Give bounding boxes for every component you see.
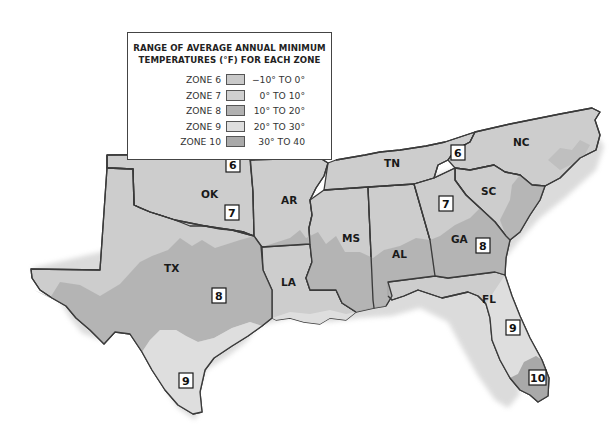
- legend-zone-name: ZONE 9: [128, 121, 226, 132]
- legend-zone-range: −10° TO 0°: [245, 74, 305, 85]
- legend-swatch-zone-6: [226, 74, 245, 85]
- legend-zone-name: ZONE 10: [128, 136, 226, 147]
- state-label-nc: NC: [513, 136, 530, 148]
- svg-text:7: 7: [228, 207, 236, 220]
- legend-zone-range: 0° TO 10°: [245, 90, 305, 101]
- zone-marker-fl-10: 10: [529, 370, 546, 385]
- state-label-ga: GA: [451, 233, 469, 245]
- legend-swatch-zone-7: [226, 90, 245, 101]
- legend-zone-name: ZONE 6: [128, 74, 226, 85]
- svg-text:10: 10: [530, 372, 546, 385]
- state-label-al: AL: [392, 248, 407, 260]
- state-label-la: LA: [281, 276, 297, 288]
- state-label-sc: SC: [481, 185, 497, 197]
- zone-marker-tn-6: 6: [451, 145, 465, 160]
- legend-swatch-zone-10: [226, 136, 245, 147]
- zone-marker-ok-7: 7: [225, 205, 239, 220]
- state-label-ms: MS: [342, 232, 360, 244]
- legend-swatch-zone-8: [226, 105, 245, 116]
- legend-row-zone-8: ZONE 8 10° TO 20°: [128, 103, 331, 119]
- legend: RANGE OF AVERAGE ANNUAL MINIMUM TEMPERAT…: [127, 32, 332, 160]
- legend-swatch-zone-9: [226, 121, 245, 132]
- state-label-tx: TX: [164, 262, 179, 274]
- zone-marker-ga-7: 7: [439, 196, 453, 211]
- legend-row-zone-7: ZONE 7 0° TO 10°: [128, 88, 331, 104]
- svg-text:6: 6: [229, 159, 237, 172]
- legend-zone-range: 20° TO 30°: [245, 121, 305, 132]
- zone-marker-tx-8: 8: [212, 288, 226, 303]
- legend-rows: ZONE 6 −10° TO 0° ZONE 7 0° TO 10° ZONE …: [128, 72, 331, 150]
- zone-marker-tx-9: 9: [179, 373, 193, 388]
- state-label-fl: FL: [482, 293, 496, 305]
- svg-text:9: 9: [182, 375, 190, 388]
- legend-title-line2: TEMPERATURES (°F) FOR EACH ZONE: [128, 54, 331, 66]
- svg-text:9: 9: [509, 322, 517, 335]
- state-label-ar: AR: [281, 194, 297, 206]
- legend-zone-range: 10° TO 20°: [245, 105, 305, 116]
- legend-row-zone-9: ZONE 9 20° TO 30°: [128, 119, 331, 135]
- legend-row-zone-10: ZONE 10 30° TO 40: [128, 134, 331, 150]
- svg-text:8: 8: [215, 290, 223, 303]
- svg-text:7: 7: [442, 198, 450, 211]
- svg-text:8: 8: [479, 240, 487, 253]
- zone-marker-ga-8: 8: [476, 238, 490, 253]
- svg-text:6: 6: [454, 147, 462, 160]
- state-label-ok: OK: [201, 188, 219, 200]
- state-label-tn: TN: [384, 157, 400, 169]
- legend-zone-range: 30° TO 40: [245, 136, 305, 147]
- legend-title-line1: RANGE OF AVERAGE ANNUAL MINIMUM: [128, 42, 331, 54]
- legend-title: RANGE OF AVERAGE ANNUAL MINIMUM TEMPERAT…: [128, 42, 331, 66]
- zone-marker-fl-9: 9: [506, 320, 520, 335]
- legend-zone-name: ZONE 8: [128, 105, 226, 116]
- legend-zone-name: ZONE 7: [128, 90, 226, 101]
- legend-row-zone-6: ZONE 6 −10° TO 0°: [128, 72, 331, 88]
